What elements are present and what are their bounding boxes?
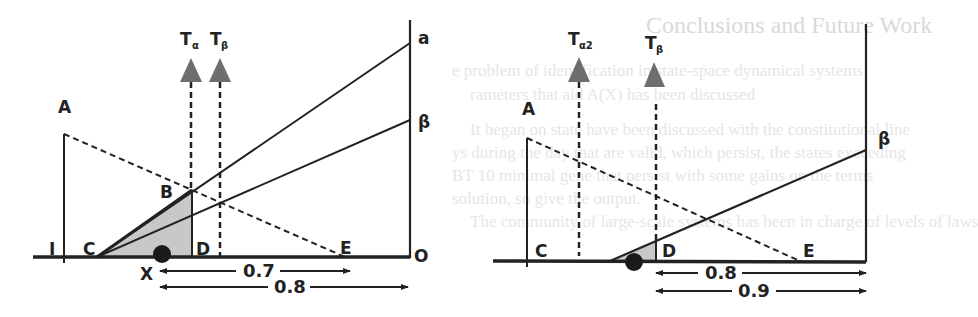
label-beta-end: β	[418, 112, 430, 132]
measure-label-short-right: 0.8	[705, 262, 737, 283]
label-c-right: C	[535, 241, 547, 261]
label-e: E	[340, 238, 352, 258]
label-x: X	[140, 264, 153, 284]
label-t-alpha: T	[180, 29, 192, 49]
label-d: D	[196, 239, 210, 259]
left-diagram: A I C B D E O X a β T α T β 0.7 0.8	[33, 20, 430, 297]
label-t-alpha2-subscript: α2	[579, 40, 593, 51]
right-line-beta	[610, 150, 866, 261]
t-alpha-arrow-icon	[180, 58, 202, 82]
label-t-beta-right-subscript: β	[656, 44, 663, 55]
label-i: I	[49, 239, 55, 259]
right-diagram: A C D E β T α2 T β 0.8 0.9	[493, 24, 890, 301]
label-a-point-right: A	[522, 99, 536, 119]
label-e-right: E	[803, 241, 815, 261]
t-beta-arrow-icon	[209, 58, 231, 82]
label-c: C	[83, 239, 95, 259]
label-t-alpha-subscript: α	[192, 40, 199, 51]
t-beta-right-arrow-icon	[644, 62, 665, 87]
label-a-point: A	[58, 97, 72, 117]
position-dot-x	[153, 245, 171, 263]
label-o: O	[414, 246, 428, 266]
label-beta-end-right: β	[878, 129, 890, 149]
left-line-c-beta	[97, 120, 410, 257]
label-alpha-end: a	[418, 28, 429, 48]
label-t-beta-subscript: β	[221, 40, 228, 51]
label-b: B	[160, 182, 173, 202]
label-d-right: D	[662, 241, 676, 261]
measure-label-long-right: 0.9	[738, 280, 770, 301]
measure-label-long: 0.8	[274, 276, 306, 297]
right-baseline	[493, 261, 866, 262]
measure-label-short: 0.7	[243, 260, 275, 281]
position-dot-right	[625, 253, 643, 271]
t-alpha2-arrow-icon	[568, 57, 590, 82]
